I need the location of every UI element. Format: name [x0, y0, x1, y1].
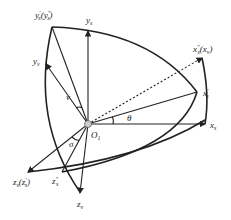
ys-label: ys	[85, 15, 93, 26]
origin-label: O1	[91, 130, 101, 141]
bottom-arc	[28, 120, 205, 172]
top-arc	[52, 27, 197, 92]
yprime-axis	[52, 27, 88, 124]
xdouble-axis	[88, 58, 202, 124]
sphere-arcs	[28, 27, 207, 192]
xprime-label: x′s	[202, 88, 209, 99]
sigma-label: σ	[69, 139, 74, 149]
theta-arc	[112, 117, 113, 124]
origin-point	[85, 121, 92, 128]
outer-arc	[62, 92, 197, 172]
coordinate-frame-diagram: O1 ys y′s(y″s) yv x″s(xv) x′s xs zs(z′s)…	[0, 0, 231, 220]
xdouble-label: x″s(xv)	[192, 44, 213, 55]
zs-label: zs(z′s)	[12, 177, 30, 188]
zdouble-label: z″s	[51, 176, 59, 187]
zv-label: zv	[76, 199, 84, 210]
xs-label: xs	[209, 120, 217, 131]
theta-label: θ	[127, 113, 132, 123]
yprime-label: y′s(y″s)	[34, 10, 53, 21]
nu-arc	[76, 107, 82, 108]
nu-label: ν	[66, 92, 70, 102]
xprime-axis	[88, 92, 197, 124]
zv-axis	[80, 124, 88, 193]
yv-label: yv	[32, 56, 40, 67]
